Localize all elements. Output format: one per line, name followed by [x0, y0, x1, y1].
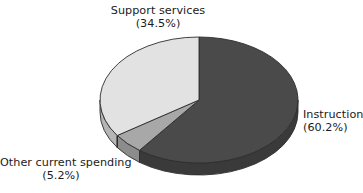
slice-label-other-current-spending: Other current spending (5.2%)	[0, 156, 122, 182]
slice-label-instruction-percent: (60.2%)	[303, 121, 363, 134]
slice-label-support-services-percent: (34.5%)	[84, 17, 232, 30]
slice-label-instruction: Instruction (60.2%)	[303, 108, 363, 134]
slice-label-support-services-name: Support services	[111, 4, 205, 17]
pie-geometry	[100, 37, 298, 175]
slice-label-support-services: Support services (34.5%)	[84, 4, 232, 30]
slice-label-instruction-name: Instruction	[303, 108, 363, 121]
slice-label-other-current-spending-percent: (5.2%)	[0, 169, 122, 182]
slice-label-other-current-spending-name: Other current spending	[0, 156, 132, 169]
